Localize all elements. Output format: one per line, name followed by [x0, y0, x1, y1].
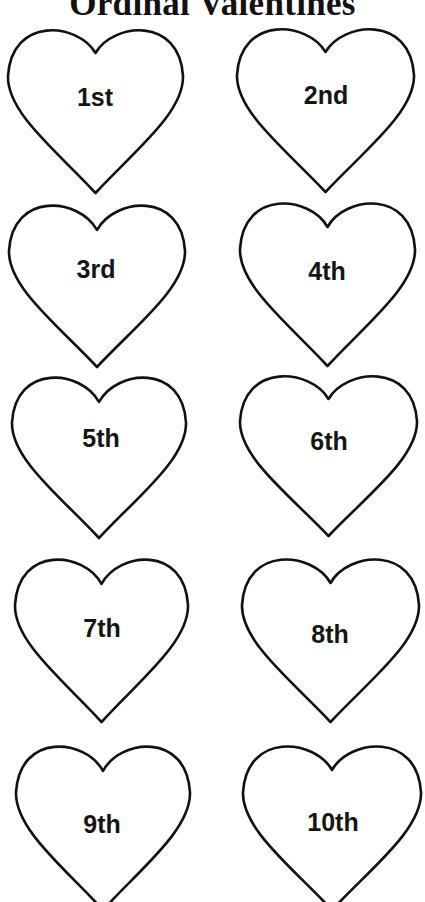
hearts-grid: 1st 2nd 3rd 4th 5th 6th 7th 8th 9th 10th — [0, 0, 425, 902]
heart-9: 9th — [16, 747, 190, 902]
heart-label: 1st — [77, 83, 114, 111]
heart-4: 4th — [240, 204, 415, 366]
heart-label: 5th — [82, 424, 120, 452]
heart-outline — [240, 376, 417, 536]
heart-outline — [9, 206, 185, 367]
heart-outline — [237, 29, 414, 192]
heart-10: 10th — [243, 747, 421, 902]
heart-label: 7th — [83, 614, 121, 642]
heart-label: 6th — [310, 427, 348, 455]
heart-label: 4th — [308, 257, 346, 285]
heart-label: 10th — [307, 808, 358, 836]
heart-2: 2nd — [237, 29, 414, 192]
heart-outline — [8, 30, 183, 193]
heart-outline — [12, 378, 186, 538]
heart-1: 1st — [8, 30, 183, 193]
heart-8: 8th — [242, 560, 419, 722]
heart-5: 5th — [12, 378, 186, 538]
heart-3: 3rd — [9, 206, 185, 367]
heart-label: 2nd — [304, 81, 348, 109]
heart-6: 6th — [240, 376, 417, 536]
heart-7: 7th — [15, 560, 188, 722]
heart-label: 8th — [311, 620, 349, 648]
heart-label: 3rd — [77, 255, 116, 283]
heart-label: 9th — [83, 810, 121, 838]
